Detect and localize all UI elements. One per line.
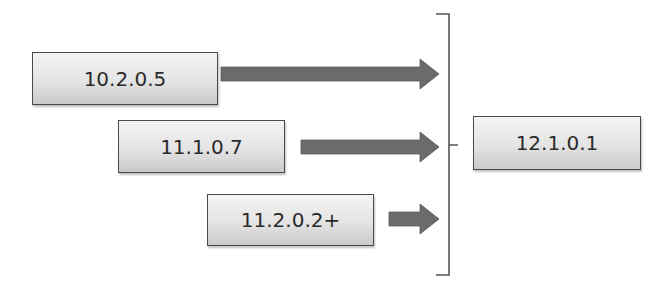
source-label: 11.1.0.7: [160, 135, 243, 159]
target-label: 12.1.0.1: [516, 131, 599, 155]
source-box-11-1-0-7: 11.1.0.7: [118, 120, 285, 173]
right-brace-bracket: [434, 10, 464, 278]
arrow-right-icon: [387, 203, 441, 235]
source-label: 10.2.0.5: [84, 67, 167, 91]
target-box-12-1-0-1: 12.1.0.1: [473, 116, 641, 170]
arrow-right-icon: [219, 58, 441, 90]
arrow-right-icon: [299, 131, 441, 163]
source-box-10-2-0-5: 10.2.0.5: [32, 52, 218, 105]
source-box-11-2-0-2: 11.2.0.2+: [207, 194, 374, 246]
source-label: 11.2.0.2+: [241, 208, 340, 232]
